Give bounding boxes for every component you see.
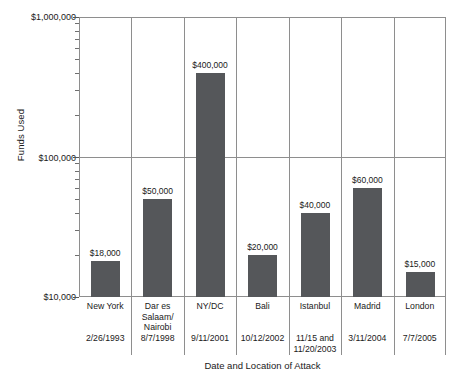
category-date: 11/15 and 11/20/2003 [290,333,340,354]
category-name: Madrid [343,301,391,312]
table-column-separator [184,297,185,355]
bar-chart: Funds Used $1,000,000 $100,000 $10,000 $… [0,0,469,380]
category-date: 7/7/2005 [395,333,445,344]
bar [91,261,120,297]
table-column-separator [394,297,395,355]
category-name: New York [81,301,129,312]
table-column: Dar es Salaam/ Nairobi8/7/1998 [131,297,183,355]
table-column: New York2/26/1993 [79,297,131,355]
bar-value-label: $18,000 [79,248,131,258]
column-separator [131,17,132,297]
bar [406,272,435,297]
column-separator [236,17,237,297]
category-date: 3/11/2004 [342,333,392,344]
bar-value-label: $400,000 [184,60,236,70]
y-tick-label-100000: $100,000 [4,153,76,163]
table-column-separator [236,297,237,355]
bar [301,213,330,297]
bar [248,255,277,297]
category-name: NY/DC [186,301,234,312]
bar-column: $50,000 [131,17,183,297]
category-date: 2/26/1993 [80,333,130,344]
column-separator [341,17,342,297]
bar-column: $15,000 [394,17,446,297]
table-column: London7/7/2005 [394,297,446,355]
bar-value-label: $60,000 [341,175,393,185]
bar-column: $18,000 [79,17,131,297]
category-name: London [396,301,444,312]
y-tick-label-1000000: $1,000,000 [4,12,76,22]
bar-value-label: $20,000 [236,242,288,252]
bar-column: $400,000 [184,17,236,297]
bar [353,188,382,297]
category-table: New York2/26/1993Dar es Salaam/ Nairobi8… [79,297,446,355]
bar-column: $60,000 [341,17,393,297]
column-separator [394,17,395,297]
bar-value-label: $15,000 [394,259,446,269]
table-column-separator [445,297,446,355]
category-name: Dar es Salaam/ Nairobi [133,301,181,333]
bar-column: $20,000 [236,17,288,297]
y-tick-label-10000: $10,000 [4,292,76,302]
table-column: NY/DC9/11/2001 [184,297,236,355]
bar-value-label: $50,000 [131,186,183,196]
bar-column: $40,000 [289,17,341,297]
table-column-separator [341,297,342,355]
bar [143,199,172,297]
column-separator [289,17,290,297]
table-column: Istanbul11/15 and 11/20/2003 [289,297,341,355]
table-column: Madrid3/11/2004 [341,297,393,355]
y-axis-tick-labels: $1,000,000 $100,000 $10,000 [0,0,76,380]
category-date: 8/7/1998 [132,333,182,344]
bar-value-label: $40,000 [289,200,341,210]
category-date: 10/12/2002 [237,333,287,344]
table-column: Bali10/12/2002 [236,297,288,355]
bars-layer: $18,000$50,000$400,000$20,000$40,000$60,… [79,17,446,297]
category-name: Bali [238,301,286,312]
bar [196,73,225,297]
category-date: 9/11/2001 [185,333,235,344]
x-axis-title: Date and Location of Attack [79,360,446,371]
category-name: Istanbul [291,301,339,312]
table-column-separator [131,297,132,355]
